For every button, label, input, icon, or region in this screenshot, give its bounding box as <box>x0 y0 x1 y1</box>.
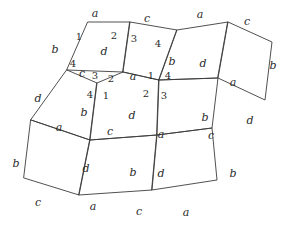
tiling-figure: acacbdbbdcaadbdbdacacbdbdbcaca1234432144… <box>0 0 289 225</box>
tile-face <box>157 78 218 135</box>
tile-face <box>152 128 217 190</box>
tile-face <box>67 22 130 72</box>
tiling-svg <box>0 0 289 225</box>
tile-faces <box>24 22 272 195</box>
tile-face <box>79 135 157 195</box>
tile-face <box>90 72 159 140</box>
